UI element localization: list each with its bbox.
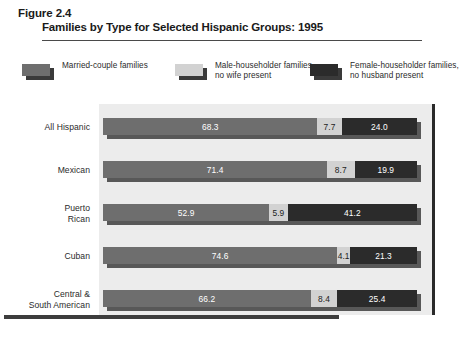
stacked-bar: 52.95.941.2 <box>103 204 417 221</box>
row-label-line: South American <box>0 300 90 311</box>
row-label: Central &South American <box>0 289 90 310</box>
row-label-line: Central & <box>0 289 90 300</box>
bar-segment-married: 68.3 <box>103 118 317 135</box>
bar-segment-male: 7.7 <box>317 118 341 135</box>
stacked-bar: 66.28.425.4 <box>103 290 417 307</box>
row-label-line: Cuban <box>0 251 90 262</box>
bar-segment-male: 8.7 <box>327 161 354 178</box>
panel-bottom-edge <box>4 315 339 319</box>
row-label: Mexican <box>0 165 90 176</box>
legend-label-married: Married-couple families <box>62 61 148 71</box>
bar-value-label: 4.1 <box>338 251 350 261</box>
figure-heading: Figure 2.4 Families by Type for Selected… <box>18 6 454 35</box>
bar-segment-male: 8.4 <box>311 290 337 307</box>
bar-segment-female: 25.4 <box>337 290 417 307</box>
row-label-line: Puerto <box>0 203 90 214</box>
row-label-line: Mexican <box>0 165 90 176</box>
row-label-line: All Hispanic <box>0 122 90 133</box>
bar-segment-female: 21.3 <box>350 247 417 264</box>
bar-value-label: 8.7 <box>335 165 347 175</box>
bar-value-label: 25.4 <box>369 294 386 304</box>
bar-segment-married: 71.4 <box>103 161 327 178</box>
bar-segment-male: 4.1 <box>337 247 350 264</box>
title-divider <box>42 40 422 41</box>
legend-label-male: Male-householder families, no wife prese… <box>215 61 320 82</box>
row-label: All Hispanic <box>0 122 90 133</box>
stacked-bar: 74.64.121.3 <box>103 247 417 264</box>
bar-value-label: 19.9 <box>377 165 394 175</box>
stacked-bar: 71.48.719.9 <box>103 161 417 178</box>
bar-value-label: 21.3 <box>375 251 392 261</box>
bar-value-label: 68.3 <box>202 122 219 132</box>
legend-label-female: Female-householder families, no husband … <box>350 61 460 82</box>
chart-row: Central &South American66.28.425.4 <box>0 290 472 312</box>
legend-swatch-fill <box>310 64 338 76</box>
row-label: PuertoRican <box>0 203 90 224</box>
chart-row: PuertoRican52.95.941.2 <box>0 204 472 226</box>
chart-row: Cuban74.64.121.3 <box>0 247 472 269</box>
chart-legend: Married-couple familiesMale-householder … <box>18 62 458 100</box>
bar-value-label: 71.4 <box>207 165 224 175</box>
bar-segment-married: 74.6 <box>103 247 337 264</box>
chart-row: All Hispanic68.37.724.0 <box>0 118 472 140</box>
chart-row: Mexican71.48.719.9 <box>0 161 472 183</box>
legend-swatch-fill <box>175 64 203 76</box>
bar-segment-married: 66.2 <box>103 290 311 307</box>
row-label-line: Rican <box>0 214 90 225</box>
legend-swatch-female <box>310 64 342 80</box>
stacked-bar: 68.37.724.0 <box>103 118 417 135</box>
figure-number: Figure 2.4 <box>18 6 454 20</box>
bar-segment-male: 5.9 <box>269 204 288 221</box>
figure-title: Families by Type for Selected Hispanic G… <box>42 20 454 35</box>
bar-segment-female: 24.0 <box>342 118 417 135</box>
source-note-cutoff <box>18 331 318 338</box>
bar-value-label: 24.0 <box>371 122 388 132</box>
bar-value-label: 41.2 <box>344 208 361 218</box>
bar-value-label: 74.6 <box>212 251 229 261</box>
legend-swatch-married <box>22 64 54 80</box>
bar-segment-female: 19.9 <box>355 161 417 178</box>
bar-value-label: 7.7 <box>324 122 336 132</box>
chart-rows: All Hispanic68.37.724.0Mexican71.48.719.… <box>0 104 472 315</box>
legend-swatch-male <box>175 64 207 80</box>
row-label: Cuban <box>0 251 90 262</box>
bar-value-label: 66.2 <box>199 294 216 304</box>
bar-segment-female: 41.2 <box>288 204 417 221</box>
legend-swatch-fill <box>22 64 50 76</box>
bar-value-label: 5.9 <box>272 208 284 218</box>
bar-value-label: 8.4 <box>318 294 330 304</box>
bar-value-label: 52.9 <box>178 208 195 218</box>
bar-segment-married: 52.9 <box>103 204 269 221</box>
